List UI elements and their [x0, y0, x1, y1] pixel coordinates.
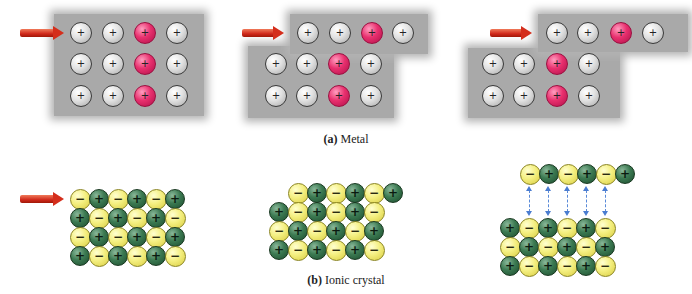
- cation: +: [595, 237, 615, 257]
- highlighted-metal-ion: +: [328, 85, 350, 107]
- metal-ion: +: [166, 85, 188, 107]
- anion: −: [520, 164, 541, 185]
- highlighted-metal-ion: +: [546, 53, 568, 75]
- repulsion-arrow-icon: [548, 190, 551, 212]
- anion: −: [558, 164, 579, 185]
- anion: −: [326, 202, 347, 223]
- cation: +: [615, 164, 635, 184]
- cation: +: [538, 218, 558, 238]
- anion: −: [519, 218, 540, 239]
- caption-metal: (a) Metal: [324, 132, 369, 147]
- anion: −: [165, 246, 186, 267]
- cation: +: [519, 237, 539, 257]
- metal-ion: +: [513, 85, 535, 107]
- repulsion-arrow-icon: [529, 190, 532, 212]
- caption-metal-text: Metal: [338, 132, 369, 146]
- anion: −: [519, 256, 540, 277]
- cation: +: [108, 246, 128, 266]
- metal-ion: +: [265, 53, 287, 75]
- metal-ion: +: [642, 22, 664, 44]
- metal-ion: +: [166, 53, 188, 75]
- cation: +: [127, 189, 147, 209]
- cation: +: [345, 183, 365, 203]
- force-arrow-icon: [20, 26, 64, 40]
- cation: +: [70, 208, 90, 228]
- force-arrow-icon: [490, 26, 532, 40]
- anion: −: [364, 240, 385, 261]
- metal-ion: +: [102, 85, 124, 107]
- metal-ion: +: [265, 85, 287, 107]
- anion: −: [595, 218, 616, 239]
- metal-ion: +: [102, 53, 124, 75]
- metal-ion: +: [70, 53, 92, 75]
- anion: −: [70, 189, 91, 210]
- cation: +: [326, 221, 346, 241]
- metal-ion: +: [482, 85, 504, 107]
- highlighted-metal-ion: +: [361, 22, 383, 44]
- anion: −: [288, 240, 309, 261]
- metal-ion: +: [546, 22, 568, 44]
- metal-ion: +: [102, 22, 124, 44]
- cation: +: [307, 183, 327, 203]
- caption-ionic-label: (b): [307, 273, 322, 287]
- anion: −: [89, 246, 110, 267]
- metal-ion: +: [577, 22, 599, 44]
- cation: +: [345, 202, 365, 222]
- caption-ionic-text: Ionic crystal: [322, 273, 385, 287]
- anion: −: [108, 227, 129, 248]
- metal-ion: +: [329, 22, 351, 44]
- anion: −: [576, 237, 597, 258]
- metal-ion: +: [392, 22, 414, 44]
- highlighted-metal-ion: +: [134, 85, 156, 107]
- anion: −: [108, 189, 129, 210]
- caption-metal-label: (a): [324, 132, 338, 146]
- anion: −: [70, 227, 91, 248]
- metal-ion: +: [578, 85, 600, 107]
- repulsion-arrow-icon: [605, 190, 608, 212]
- cation: +: [165, 189, 185, 209]
- anion: −: [288, 183, 309, 204]
- anion: −: [326, 183, 347, 204]
- metal-ion: +: [166, 22, 188, 44]
- metal-ion: +: [70, 85, 92, 107]
- anion: −: [307, 221, 328, 242]
- anion: −: [596, 164, 617, 185]
- cation: +: [576, 218, 596, 238]
- anion: −: [146, 227, 167, 248]
- anion: −: [538, 237, 559, 258]
- highlighted-metal-ion: +: [134, 22, 156, 44]
- metal-ion: +: [297, 22, 319, 44]
- cation: +: [108, 208, 128, 228]
- cation: +: [557, 237, 577, 257]
- metal-ion: +: [513, 53, 535, 75]
- metal-ion: +: [296, 53, 318, 75]
- cation: +: [345, 240, 365, 260]
- force-arrow-icon: [20, 192, 64, 206]
- cation: +: [146, 246, 166, 266]
- anion: −: [146, 189, 167, 210]
- cation: +: [500, 218, 520, 238]
- metal-ion: +: [296, 85, 318, 107]
- cation: +: [89, 227, 109, 247]
- anion: −: [345, 221, 366, 242]
- metal-ion: +: [360, 85, 382, 107]
- cation: +: [576, 256, 596, 276]
- cation: +: [127, 227, 147, 247]
- anion: −: [326, 240, 347, 261]
- anion: −: [127, 246, 148, 267]
- highlighted-metal-ion: +: [610, 22, 632, 44]
- anion: −: [89, 208, 110, 229]
- anion: −: [364, 183, 385, 204]
- anion: −: [557, 256, 578, 277]
- metal-ion: +: [482, 53, 504, 75]
- anion: −: [288, 202, 309, 223]
- cation: +: [70, 246, 90, 266]
- cation: +: [288, 221, 308, 241]
- cation: +: [165, 227, 185, 247]
- cation: +: [500, 256, 520, 276]
- cation: +: [146, 208, 166, 228]
- highlighted-metal-ion: +: [546, 85, 568, 107]
- cation: +: [269, 202, 289, 222]
- cation: +: [577, 164, 597, 184]
- metal-ion: +: [578, 53, 600, 75]
